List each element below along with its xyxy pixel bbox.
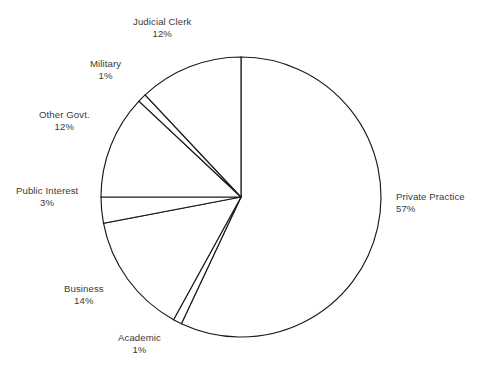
- pie-chart: Private Practice57%Academic1%Business14%…: [0, 0, 493, 381]
- pie-label-value-business: 14%: [64, 295, 104, 307]
- pie-label-name-business: Business: [64, 283, 104, 295]
- pie-label-judicial-clerk: Judicial Clerk12%: [133, 16, 191, 40]
- pie-label-public-interest: Public Interest3%: [16, 185, 78, 209]
- pie-label-value-military: 1%: [90, 70, 121, 82]
- pie-label-business: Business14%: [64, 283, 104, 307]
- pie-label-value-public-interest: 3%: [16, 197, 78, 209]
- pie-label-value-private-practice: 57%: [396, 203, 465, 215]
- pie-label-name-judicial-clerk: Judicial Clerk: [133, 16, 191, 28]
- pie-label-name-academic: Academic: [118, 332, 161, 344]
- pie-label-name-military: Military: [90, 58, 121, 70]
- pie-label-academic: Academic1%: [118, 332, 161, 356]
- pie-label-value-judicial-clerk: 12%: [133, 28, 191, 40]
- pie-label-name-public-interest: Public Interest: [16, 185, 78, 197]
- pie-label-value-academic: 1%: [118, 344, 161, 356]
- pie-slices-group: [101, 57, 381, 337]
- pie-label-value-other-govt: 12%: [39, 121, 90, 133]
- pie-label-name-private-practice: Private Practice: [396, 191, 465, 203]
- pie-label-other-govt: Other Govt.12%: [39, 109, 90, 133]
- pie-label-private-practice: Private Practice57%: [396, 191, 465, 215]
- pie-label-military: Military1%: [90, 58, 121, 82]
- pie-label-name-other-govt: Other Govt.: [39, 109, 90, 121]
